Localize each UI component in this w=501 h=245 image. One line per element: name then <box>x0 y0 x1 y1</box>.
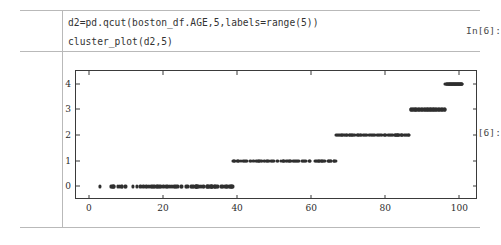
y-axis-tick-mark <box>76 109 80 110</box>
data-point <box>309 159 312 162</box>
x-axis-tick-mark <box>385 195 386 199</box>
y-axis-tick-mark <box>473 83 477 84</box>
data-point <box>304 159 307 162</box>
data-point <box>131 185 134 188</box>
data-point <box>98 185 101 188</box>
data-point <box>180 185 183 188</box>
y-axis-tick-mark <box>473 135 477 136</box>
y-axis-tick-label: 3 <box>65 104 71 114</box>
y-axis-tick-mark <box>473 186 477 187</box>
x-axis-tick-mark <box>163 71 164 75</box>
x-axis-tick-label: 20 <box>157 203 168 213</box>
y-axis-tick-mark <box>473 160 477 161</box>
y-axis-tick-mark <box>76 135 80 136</box>
cell-divider-bottom <box>20 227 480 228</box>
y-axis-tick-label: 0 <box>65 181 71 191</box>
x-axis-tick-label: 0 <box>86 203 92 213</box>
data-point <box>113 185 116 188</box>
y-axis-tick-mark <box>76 83 80 84</box>
x-axis-tick-mark <box>88 71 89 75</box>
x-axis-tick-mark <box>385 71 386 75</box>
code-editor[interactable]: d2=pd.qcut(boston_df.AGE,5,labels=range(… <box>68 13 488 51</box>
data-point <box>408 134 411 137</box>
x-axis-tick-mark <box>459 195 460 199</box>
input-gutter-divider <box>62 11 63 51</box>
x-axis-tick-label: 60 <box>305 203 316 213</box>
y-axis-tick-label: 2 <box>65 130 71 140</box>
data-point <box>334 159 337 162</box>
y-axis-tick-mark <box>473 109 477 110</box>
x-axis-tick-label: 100 <box>451 203 468 213</box>
code-line[interactable]: d2=pd.qcut(boston_df.AGE,5,labels=range(… <box>68 13 488 32</box>
plot-axes: 01234020406080100 <box>75 70 477 199</box>
code-line[interactable]: cluster_plot(d2,5) <box>68 32 488 51</box>
x-axis-tick-label: 80 <box>380 203 391 213</box>
data-point <box>443 108 446 111</box>
notebook-cell: In[6]: Out[6]: d2=pd.qcut(boston_df.AGE,… <box>0 0 501 245</box>
cell-divider-top <box>20 10 480 11</box>
data-point <box>231 185 234 188</box>
data-point <box>186 185 189 188</box>
y-axis-tick-label: 1 <box>65 156 71 166</box>
x-axis-tick-mark <box>237 195 238 199</box>
x-axis-tick-mark <box>459 71 460 75</box>
y-axis-tick-label: 4 <box>65 79 71 89</box>
x-axis-tick-mark <box>311 71 312 75</box>
x-axis-tick-mark <box>311 195 312 199</box>
x-axis-tick-mark <box>237 71 238 75</box>
y-axis-tick-mark <box>76 160 80 161</box>
cell-divider-middle <box>20 51 480 52</box>
output-plot: 01234020406080100 <box>62 55 501 225</box>
y-axis-tick-mark <box>76 186 80 187</box>
data-point <box>461 82 464 85</box>
x-axis-tick-mark <box>163 195 164 199</box>
x-axis-tick-label: 40 <box>231 203 242 213</box>
x-axis-tick-mark <box>88 195 89 199</box>
data-point <box>124 185 127 188</box>
